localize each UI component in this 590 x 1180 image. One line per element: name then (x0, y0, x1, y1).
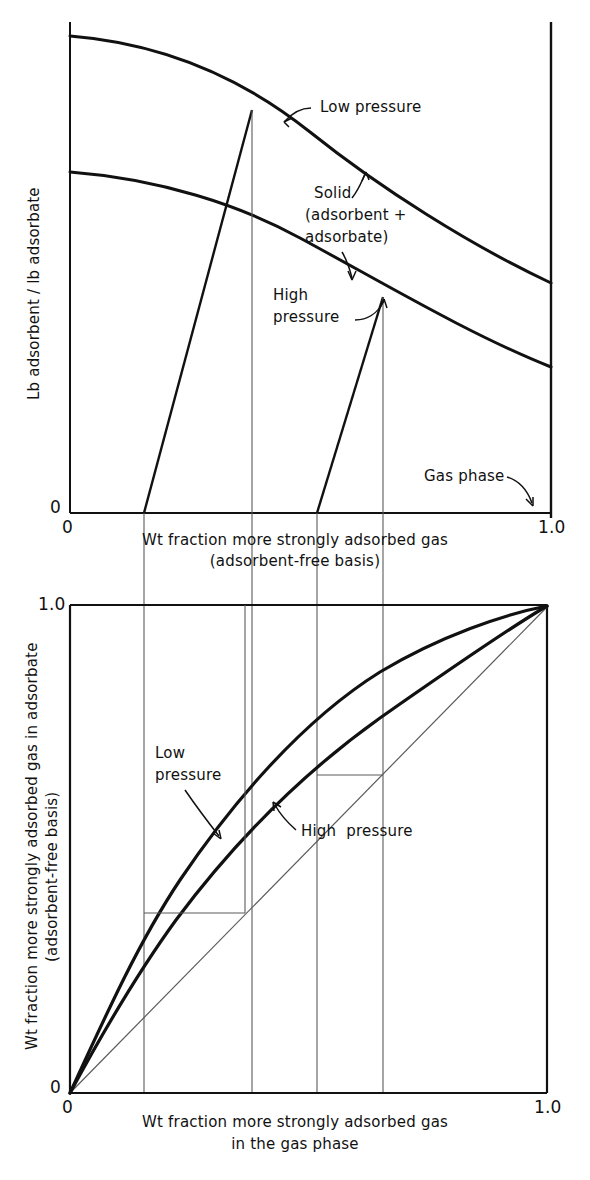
gas-phase-leader-line (507, 477, 532, 503)
adsorption-equilibrium-figure: Lb adsorbent / lb adsorbate 0 0 1.0 Low … (0, 0, 590, 1180)
low-pressure-leader-arrow (284, 118, 292, 127)
upper-high-pressure-label-line2: pressure (273, 309, 339, 326)
upper-x-axis-title-line1: Wt fraction more strongly adsorbed gas (135, 532, 455, 549)
upper-solid-label-line2: (adsorbent + (305, 207, 407, 224)
upper-gas-phase-label: Gas phase (424, 468, 504, 485)
upper-high-pressure-label-line1: High (273, 287, 308, 304)
lower-panel (70, 605, 547, 1093)
upper-y-axis-title: Lb adsorbent / lb adsorbate (26, 187, 43, 400)
upper-solid-label-line1: Solid (314, 185, 352, 202)
lower-x-axis-title-line1: Wt fraction more strongly adsorbed gas (130, 1114, 460, 1131)
upper-y-origin-tick: 0 (50, 498, 61, 518)
lower-x-origin-tick: 0 (62, 1098, 73, 1118)
upper-x-max-tick: 1.0 (538, 518, 566, 538)
lower-high-pressure-label: High pressure (301, 823, 413, 840)
lower-low-pressure-leader-line (185, 790, 219, 836)
upper-high-pressure-tie-line (317, 297, 383, 513)
lower-y-max-tick: 1.0 (38, 595, 66, 615)
lower-x-max-tick: 1.0 (534, 1098, 562, 1118)
upper-low-pressure-tie-line (144, 110, 252, 513)
lower-low-pressure-label-line1: Low (155, 745, 185, 762)
lower-y-axis-title-line1: Wt fraction more strongly adsorbed gas i… (24, 642, 41, 1050)
lower-diagonal-reference-line (70, 607, 547, 1093)
upper-solid-label-line3: adsorbate) (305, 229, 389, 246)
upper-x-origin-tick: 0 (62, 518, 73, 538)
upper-low-pressure-label: Low pressure (320, 99, 422, 116)
lower-x-axis-title-line2: in the gas phase (130, 1136, 460, 1153)
lower-low-pressure-label-line2: pressure (155, 767, 221, 784)
lower-y-origin-tick: 0 (50, 1078, 61, 1098)
figure-canvas (0, 0, 590, 1180)
lower-y-axis-title-line2: (adsorbent-free basis) (44, 792, 61, 962)
upper-high-pressure-curve (70, 172, 551, 367)
upper-x-axis-title-line2: (adsorbent-free basis) (135, 553, 455, 570)
lower-high-pressure-leader-line (275, 805, 296, 830)
